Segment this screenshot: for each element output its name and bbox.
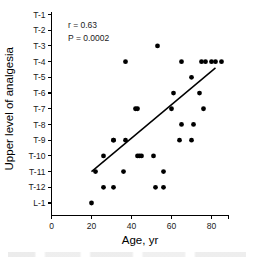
data-point <box>101 153 106 158</box>
x-tick-label: 20 <box>87 221 97 231</box>
x-tick-label: 80 <box>207 221 217 231</box>
scatter-plot-figure: T-1T-2T-3T-4T-5T-6T-7T-8T-9T-10T-11T-12L… <box>0 0 253 260</box>
data-point <box>111 138 116 143</box>
data-point <box>191 122 196 127</box>
y-tick-label: T-5 <box>33 72 46 82</box>
data-point <box>161 169 166 174</box>
data-point <box>135 106 140 111</box>
plot-canvas: T-1T-2T-3T-4T-5T-6T-7T-8T-9T-10T-11T-12L… <box>0 0 253 260</box>
data-point <box>201 106 206 111</box>
y-tick-label: T-10 <box>28 151 45 161</box>
data-point <box>161 185 166 190</box>
data-point <box>169 106 174 111</box>
y-tick-label: T-7 <box>33 104 46 114</box>
y-tick-label: T-6 <box>33 88 46 98</box>
data-point <box>189 75 194 80</box>
data-point <box>123 138 128 143</box>
data-point <box>171 91 176 96</box>
y-tick-label: T-12 <box>28 182 45 192</box>
x-tick-label: 40 <box>127 221 137 231</box>
data-point <box>101 185 106 190</box>
data-point <box>177 138 182 143</box>
data-point <box>123 59 128 64</box>
data-point <box>203 59 208 64</box>
y-tick-label: T-9 <box>33 135 46 145</box>
y-tick-label: T-4 <box>33 57 46 67</box>
data-point <box>213 59 218 64</box>
x-tick-label: 60 <box>167 221 177 231</box>
y-axis-title: Upper level of analgesia <box>3 46 15 170</box>
data-point <box>155 44 160 49</box>
x-axis-title: Age, yr <box>122 234 159 246</box>
data-point <box>179 122 184 127</box>
cropped-caption-text <box>8 252 246 257</box>
data-point <box>111 185 116 190</box>
data-point <box>93 169 98 174</box>
data-point <box>189 138 194 143</box>
y-tick-label: T-8 <box>33 120 46 130</box>
annotation-p-value: P = 0.0002 <box>68 33 109 43</box>
y-tick-label: T-1 <box>33 10 46 20</box>
data-point <box>219 59 224 64</box>
data-point <box>139 153 144 158</box>
y-tick-label: T-3 <box>33 41 46 51</box>
data-point <box>179 59 184 64</box>
data-point <box>197 91 202 96</box>
data-point <box>151 153 156 158</box>
y-tick-label: T-11 <box>29 167 46 177</box>
data-point <box>121 169 126 174</box>
annotation-correlation: r = 0.63 <box>68 20 97 30</box>
x-tick-label: 0 <box>49 221 54 231</box>
data-point <box>153 185 158 190</box>
y-tick-label: L-1 <box>33 198 46 208</box>
y-tick-label: T-2 <box>33 25 46 35</box>
data-point <box>89 201 94 206</box>
